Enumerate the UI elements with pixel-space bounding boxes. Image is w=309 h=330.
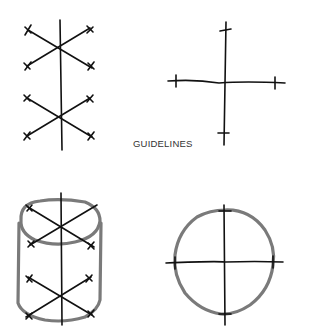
circle-figure	[155, 165, 309, 330]
guideline-diagonals-figure	[0, 0, 155, 165]
guidelines-caption: GUIDELINES	[133, 138, 193, 149]
cylinder-figure	[0, 165, 155, 330]
